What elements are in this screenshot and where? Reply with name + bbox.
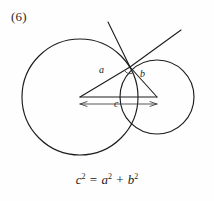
extension-line-a [108,22,130,67]
formula-caption: c2 = a2 + b2 [0,172,214,188]
triangle-side-a [80,67,130,97]
formula-exp-a: 2 [108,172,112,181]
formula-plus: + [115,172,124,187]
label-side-a: a [99,64,104,75]
geometry-drawing [0,0,214,201]
extension-line-b [130,30,181,67]
formula-equals: = [89,172,98,187]
measure-arrow-c [80,102,157,107]
formula-exp-b: 2 [134,172,138,181]
label-side-c: c [114,98,118,109]
formula-exp-c: 2 [82,172,86,181]
label-side-b: b [140,68,145,79]
figure-container: (6) a b c c2 = a2 + b2 [0,0,214,201]
